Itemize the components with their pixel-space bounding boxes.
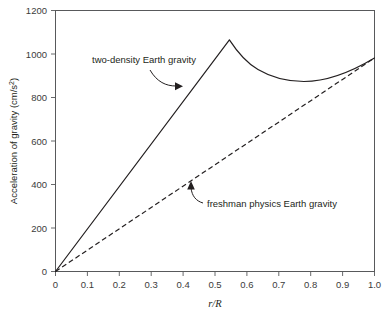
y-axis-ticks xyxy=(51,11,56,272)
x-tick-label: 0.8 xyxy=(304,279,317,290)
two-density-annotation: two-density Earth gravity xyxy=(92,54,196,90)
freshman-leader-line xyxy=(191,188,203,203)
x-tick-label: 0.2 xyxy=(113,279,126,290)
y-tick-label: 600 xyxy=(31,136,47,147)
y-tick-label: 1000 xyxy=(26,49,47,60)
y-tick-label: 400 xyxy=(31,179,47,190)
x-tick-label: 0.3 xyxy=(145,279,158,290)
plot-frame xyxy=(56,11,375,272)
y-axis-tick-labels: 1200 1000 800 600 400 200 0 xyxy=(26,5,47,277)
two-density-arrowhead xyxy=(175,82,183,90)
x-tick-label: 0.4 xyxy=(176,279,189,290)
x-tick-label: 0 xyxy=(53,279,58,290)
y-axis-title-main: Acceleration of gravity (cm/s xyxy=(8,85,19,205)
freshman-annotation-label: freshman physics Earth gravity xyxy=(207,198,337,209)
x-axis-title: r/R xyxy=(208,298,222,309)
y-tick-label: 800 xyxy=(31,92,47,103)
gravity-chart: 1200 1000 800 600 400 200 0 0 0.1 0.2 xyxy=(0,0,390,320)
x-tick-label: 0.6 xyxy=(240,279,253,290)
x-tick-label: 0.9 xyxy=(336,279,349,290)
svg-text:Acceleration of gravity (cm/s2: Acceleration of gravity (cm/s2) xyxy=(8,78,19,204)
x-tick-label: 0.1 xyxy=(81,279,94,290)
two-density-annotation-label: two-density Earth gravity xyxy=(92,54,196,65)
chart-svg: 1200 1000 800 600 400 200 0 0 0.1 0.2 xyxy=(0,0,390,320)
x-axis-ticks xyxy=(56,272,375,277)
x-tick-label: 1.0 xyxy=(368,279,381,290)
two-density-leader-line xyxy=(150,70,176,86)
y-axis-title-tail: ) xyxy=(8,78,19,81)
x-tick-label: 0.5 xyxy=(208,279,221,290)
series-two-density xyxy=(56,40,375,272)
x-axis-tick-labels: 0 0.1 0.2 0.3 0.4 0.5 0.6 0.7 0.8 0.9 1.… xyxy=(53,279,381,290)
y-axis-title: Acceleration of gravity (cm/s2) xyxy=(8,78,19,204)
series-freshman-physics xyxy=(56,58,375,272)
x-tick-label: 0.7 xyxy=(272,279,285,290)
y-tick-label: 200 xyxy=(31,223,47,234)
y-tick-label: 1200 xyxy=(26,5,47,16)
y-tick-label: 0 xyxy=(42,266,47,277)
freshman-annotation: freshman physics Earth gravity xyxy=(187,181,337,209)
